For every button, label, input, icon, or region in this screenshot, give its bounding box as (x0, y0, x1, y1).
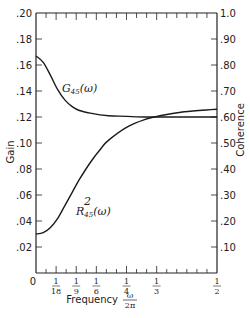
y2-tick-label: .70 (220, 86, 236, 97)
x-tick-denominator: 3 (154, 287, 159, 296)
y2-tick-label: .40 (220, 164, 236, 175)
g45-label-text: G45(ω) (62, 82, 97, 96)
x-axis-frac-num: ω (127, 291, 134, 300)
y2-tick-label: .10 (220, 242, 236, 253)
x-tick-numerator: 1 (214, 277, 219, 286)
r45-label-sup: 2 (83, 195, 91, 208)
y-tick-label: .20 (16, 8, 32, 19)
x-tick-numerator: 1 (54, 277, 59, 286)
x-axis-ticks: 01181916141312 (30, 13, 221, 296)
r45-coherence-curve (36, 109, 217, 234)
y-tick-label: .14 (16, 86, 32, 97)
x-tick-label: 118 (51, 277, 61, 296)
plot-frame (36, 13, 217, 273)
y2-tick-label: .30 (220, 190, 236, 201)
x-tick-denominator: 2 (214, 287, 219, 296)
r45-label-text: R45(ω) (75, 205, 111, 219)
y-tick-label: .04 (16, 216, 32, 227)
y-tick-label: .12 (16, 112, 32, 123)
gain-coherence-chart: .02.04.06.08.10.12.14.16.18.20 .10.20.30… (0, 0, 250, 318)
y2-tick-label: .80 (220, 60, 236, 71)
x-axis-frac-den: 2π (125, 301, 135, 310)
x-axis-title: Frequency (66, 294, 118, 305)
y2-tick-label: .60 (220, 112, 236, 123)
y-tick-label: .06 (16, 190, 32, 201)
y2-axis-ticks: .10.20.30.40.50.60.70.80.901.0 (211, 8, 236, 253)
x-tick-numerator: 1 (124, 277, 129, 286)
y-axis-title: Gain (5, 141, 16, 164)
y-axis-ticks: .02.04.06.08.10.12.14.16.18.20 (16, 8, 42, 253)
y2-tick-label: 1.0 (220, 8, 236, 19)
g45-curve-label: G45(ω) (62, 82, 97, 96)
x-tick-numerator: 1 (94, 277, 99, 286)
y2-axis-title: Coherence (235, 103, 246, 157)
x-tick-numerator: 1 (154, 277, 159, 286)
y-tick-label: .16 (16, 60, 32, 71)
y2-tick-label: .90 (220, 34, 236, 45)
x-tick-label: 12 (213, 277, 221, 296)
y2-tick-label: .20 (220, 216, 236, 227)
y-tick-label: .02 (16, 242, 32, 253)
y-tick-label: .08 (16, 164, 32, 175)
r45-curve-label: R45(ω)2 (75, 195, 111, 219)
y2-tick-label: .50 (220, 138, 236, 149)
x-tick-label: 13 (153, 277, 161, 296)
x-tick-label: 0 (30, 276, 36, 287)
y-tick-label: .18 (16, 34, 32, 45)
y-tick-label: .10 (16, 138, 32, 149)
x-tick-denominator: 18 (51, 287, 61, 296)
x-tick-numerator: 1 (74, 277, 79, 286)
